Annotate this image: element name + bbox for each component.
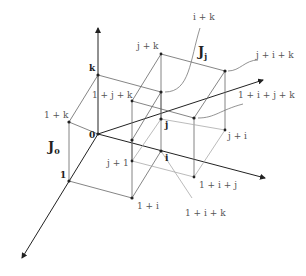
label-one-plus-i-plus-k: 1 + i + k [185,208,226,218]
label-j-plus-k: j + k [136,41,159,51]
label-one-plus-i-plus-j: 1 + i + j [199,180,237,190]
label-j: j [164,120,168,130]
label-k: k [89,63,96,73]
label-one-plus-j-plus-k: 1 + j + k [92,90,133,100]
one-axis [22,134,98,258]
label-one-plus-i-plus-j-plus-k: 1 + i + j + k [238,90,295,100]
label-one-plus-i: 1 + i [137,201,159,211]
leader-j-plus-i-plus-k [228,60,258,71]
leader-one-plus-i-plus-j-plus-k [198,104,243,118]
cube-jj [132,54,225,198]
label-j-plus-one: j + 1 [106,158,129,168]
label-i-plus-k: i + k [193,12,215,22]
label-j-plus-i: j + i [227,131,247,141]
diagram-canvas: 0 k 1 1 + k i j 1 + i j + k 1 + j + k j … [0,0,306,276]
region-label-jj: Jj [197,44,207,61]
region-label-j0: J0 [47,139,60,156]
j-axis [98,80,263,134]
label-one: 1 [60,170,66,180]
label-one-plus-k: 1 + k [44,110,69,120]
label-j-plus-i-plus-k: j + i + k [255,50,294,60]
label-origin: 0 [89,130,95,140]
label-i: i [165,153,169,163]
